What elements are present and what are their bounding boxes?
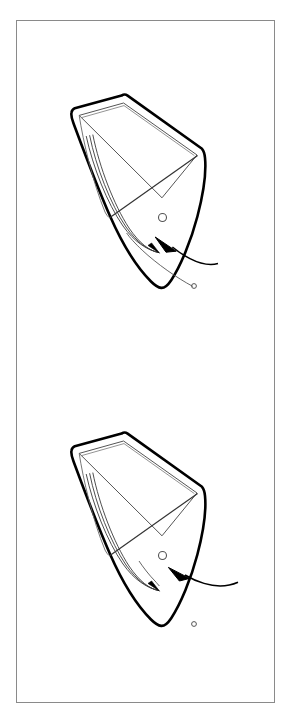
bow-eye-circle: [159, 552, 167, 560]
boat-figure-lower: [1, 339, 286, 724]
boat-figure-upper: [1, 1, 286, 363]
stern-eye-circle: [192, 622, 197, 627]
hull-outline: [71, 433, 205, 626]
direction-arrow-tail: [185, 575, 238, 586]
hull-outline: [71, 95, 205, 288]
page-root: [0, 0, 286, 724]
bow-eye-circle: [159, 214, 167, 222]
image-frame: [16, 20, 275, 703]
boat-drawing-upper: [1, 1, 286, 363]
boat-drawing-lower: [1, 339, 286, 724]
